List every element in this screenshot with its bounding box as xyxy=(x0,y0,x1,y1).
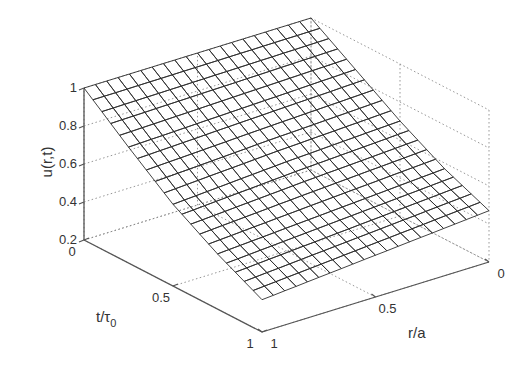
surface-patch xyxy=(274,228,294,241)
t-tick-label: 1 xyxy=(246,336,253,351)
surface-patch xyxy=(240,241,260,254)
surface-patch xyxy=(129,143,149,158)
surface-patch xyxy=(401,229,421,242)
z-tick-label: 0.8 xyxy=(59,118,77,133)
z-tick xyxy=(79,88,84,90)
surface-patch xyxy=(344,251,364,264)
surface-patch xyxy=(258,259,278,272)
z-tick xyxy=(79,202,84,204)
t-tick-label: 0 xyxy=(68,244,75,259)
surface-patch xyxy=(331,207,351,220)
surface-patch xyxy=(354,199,374,212)
surface-patch xyxy=(252,237,272,250)
surface-patch xyxy=(342,203,362,216)
z-tick xyxy=(79,164,84,166)
surface-patch xyxy=(324,246,344,259)
surface-patch xyxy=(399,182,419,195)
surface-patch xyxy=(310,264,330,277)
surface-patch xyxy=(433,169,453,182)
surface-patch xyxy=(449,198,469,211)
surface-patch xyxy=(164,189,184,205)
surface-patch xyxy=(287,273,307,287)
surface-patch xyxy=(267,268,287,281)
surface-patch xyxy=(235,268,255,282)
z-tick-label: 0.4 xyxy=(59,194,77,209)
surface-patch xyxy=(346,238,366,251)
surface-patch xyxy=(355,246,375,259)
z-tick-label: 1 xyxy=(70,80,77,95)
surface-patch xyxy=(292,246,312,259)
surface-patch xyxy=(451,186,471,199)
surface-patch xyxy=(428,194,448,207)
surface-patch xyxy=(209,240,229,254)
surface-patch xyxy=(388,186,408,199)
t-tick xyxy=(173,284,178,286)
r-axis-label: r/a xyxy=(408,324,426,341)
t-tick-label: 0.5 xyxy=(152,290,170,305)
surface-patch xyxy=(137,155,157,170)
surface-patch xyxy=(218,250,238,264)
surface-patch xyxy=(446,211,466,224)
surface-patch xyxy=(406,203,426,216)
t-axis-label: t/τ0 xyxy=(96,308,116,329)
surface-patch xyxy=(320,211,340,224)
surface-patch xyxy=(335,242,355,255)
surface-patch xyxy=(369,229,389,242)
surface-patch xyxy=(358,233,378,246)
surface-patch xyxy=(392,220,412,233)
surface-patch xyxy=(297,220,317,233)
surface-patch xyxy=(349,225,369,238)
surface-patch xyxy=(286,224,306,237)
surface-patch xyxy=(238,255,258,268)
surface-patch xyxy=(281,251,301,264)
surface-patch xyxy=(380,225,400,238)
surface-patch xyxy=(244,277,264,291)
surface-patch xyxy=(422,173,442,186)
surface-patch xyxy=(191,220,211,234)
surface-patch xyxy=(303,242,323,255)
surface-patch xyxy=(120,132,140,148)
z-tick xyxy=(79,240,84,242)
r-tick-label: 0.5 xyxy=(378,301,396,316)
surface-patch xyxy=(385,199,405,212)
surface-patch xyxy=(260,246,280,259)
surface-patch xyxy=(329,220,349,233)
surface-patch xyxy=(253,286,273,300)
surface-patch xyxy=(365,194,385,207)
surface-patch xyxy=(272,242,292,255)
z-tick xyxy=(79,126,84,128)
surface-patch xyxy=(299,269,319,282)
surface-patch xyxy=(351,212,371,225)
surface-patch xyxy=(442,177,462,190)
surface-patch xyxy=(389,233,409,246)
surface-patch xyxy=(337,229,357,242)
surface-patch xyxy=(363,207,383,220)
surface-patch xyxy=(372,216,392,229)
surface-patch xyxy=(423,220,443,233)
surface-patch xyxy=(376,190,396,203)
z-axis-label: u(r,t) xyxy=(38,147,55,178)
surface-patch xyxy=(226,259,246,272)
surface-patch xyxy=(326,233,346,246)
surface-patch xyxy=(415,211,435,224)
surface-patch xyxy=(182,210,202,224)
surface-patch xyxy=(283,237,303,250)
t-axis-label-main: t/τ xyxy=(96,308,110,325)
surface-patch xyxy=(460,194,480,207)
r-tick-label: 1 xyxy=(270,336,277,351)
surface-patch xyxy=(256,273,276,287)
surface-patch xyxy=(278,264,298,277)
surface-patch xyxy=(155,177,175,193)
surface-patch xyxy=(360,220,380,233)
surface-patch xyxy=(437,203,457,216)
surface-patch xyxy=(200,230,220,244)
surface-patch xyxy=(367,242,387,255)
surface-patch xyxy=(469,202,489,215)
surface-patch xyxy=(408,190,428,203)
surface-patch xyxy=(263,233,283,246)
surface-patch xyxy=(374,203,394,216)
surface-patch xyxy=(301,255,321,268)
z-tick-label: 0.6 xyxy=(59,156,77,171)
surface-patch xyxy=(378,238,398,251)
t-tick xyxy=(84,238,89,240)
